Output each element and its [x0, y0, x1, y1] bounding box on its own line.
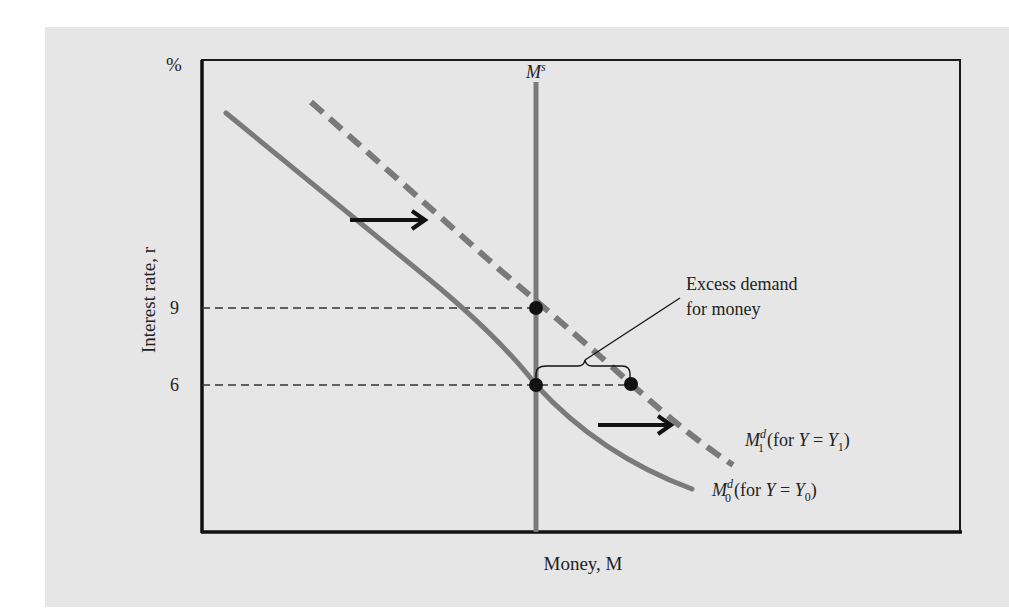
y-axis-label: Interest rate, r — [138, 246, 159, 353]
money-demand-curve-m0 — [226, 113, 692, 489]
money-demand-curve-m1 — [311, 102, 733, 465]
excess-demand-label-line1: Excess demand — [686, 274, 797, 294]
excess-demand-label-line2: for money — [686, 299, 760, 319]
annotation-leader-line — [585, 298, 680, 360]
m1-curve-label: Md1(for Y = Y1) — [744, 427, 850, 455]
shift-arrow-icon — [598, 416, 671, 434]
money-market-chart: % Ms 9 6 Interest rate, r Money, M Exces… — [0, 0, 1009, 612]
y-tick-6: 6 — [170, 375, 179, 395]
money-supply-label: Ms — [525, 60, 546, 82]
point-excess-demand — [624, 377, 638, 391]
point-new-equilibrium — [529, 301, 543, 315]
point-initial-equilibrium — [529, 378, 543, 392]
x-axis-label: Money, M — [544, 553, 623, 574]
y-tick-9: 9 — [170, 298, 179, 318]
y-unit-label: % — [166, 54, 182, 75]
m0-curve-label: Md0(for Y = Y0) — [711, 477, 817, 505]
plot-frame — [202, 60, 960, 532]
